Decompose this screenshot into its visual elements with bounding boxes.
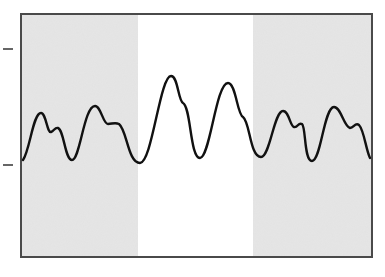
- center-unshaded-region: [138, 14, 253, 257]
- grain-overlay: [21, 14, 138, 257]
- waveform-figure: [0, 0, 385, 277]
